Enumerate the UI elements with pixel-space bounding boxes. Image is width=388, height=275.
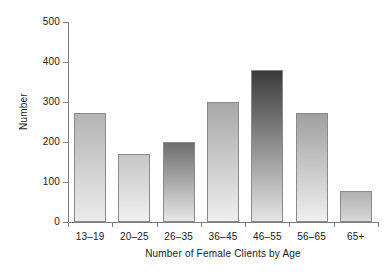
bar-56-65 (296, 113, 328, 222)
x-tick-mark (334, 222, 335, 227)
y-tick-mark (63, 182, 68, 183)
x-tick-label: 46–55 (253, 231, 282, 242)
x-tick-mark (245, 222, 246, 227)
x-tick-label: 36–45 (209, 231, 238, 242)
x-tick-label: 56–65 (297, 231, 326, 242)
x-axis-title: Number of Female Clients by Age (68, 248, 378, 259)
x-tick-mark (289, 222, 290, 227)
chart-screenshot: 0100200300400500 13–1920–2526–3536–4546–… (0, 0, 388, 275)
bar-26-35 (163, 142, 195, 222)
y-tick-label: 100 (43, 177, 60, 187)
x-tick-mark (378, 222, 379, 227)
x-tick-mark (112, 222, 113, 227)
y-tick-mark (63, 22, 68, 23)
y-tick-label: 500 (43, 17, 60, 27)
x-tick-label: 20–25 (120, 231, 149, 242)
y-axis-line (68, 22, 69, 223)
y-tick-mark (63, 142, 68, 143)
bar-13-19 (74, 113, 106, 222)
x-tick-mark (157, 222, 158, 227)
y-tick-mark (63, 62, 68, 63)
x-tick-mark (201, 222, 202, 227)
x-tick-label: 26–35 (164, 231, 193, 242)
bar-46-55 (251, 70, 283, 222)
y-tick-label: 0 (54, 217, 60, 227)
y-axis-title: Number (18, 72, 29, 152)
x-axis-line (68, 222, 378, 223)
bar-chart: 0100200300400500 13–1920–2526–3536–4546–… (0, 0, 388, 275)
y-tick-label: 300 (43, 97, 60, 107)
bar-36-45 (207, 102, 239, 222)
y-tick-mark (63, 102, 68, 103)
y-tick-label: 200 (43, 137, 60, 147)
bar-65+ (340, 191, 372, 222)
x-tick-label: 13–19 (76, 231, 105, 242)
x-tick-label: 65+ (347, 231, 365, 242)
x-tick-mark (68, 222, 69, 227)
y-tick-label: 400 (43, 57, 60, 67)
bar-20-25 (118, 154, 150, 222)
